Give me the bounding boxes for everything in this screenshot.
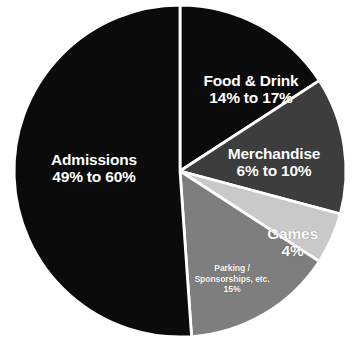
slice-label-games-value: 4% [240,242,345,259]
slice-label-admissions-name: Admissions [18,151,170,168]
slice-label-parking-value: 15% [174,284,290,295]
slice-label-food-drink: Food & Drink 14% to 17% [176,72,326,107]
slice-label-admissions: Admissions 49% to 60% [18,151,170,186]
slice-label-parking: Parking / Sponsorships, etc. 15% [174,263,290,295]
slice-label-food-drink-name: Food & Drink [176,72,326,89]
slice-label-food-drink-value: 14% to 17% [176,89,326,106]
slice-label-games-name: Games [240,225,345,242]
pie-chart-figure: Admissions 49% to 60% Food & Drink 14% t… [0,0,352,343]
slice-label-merchandise-value: 6% to 10% [198,162,350,179]
slice-label-merchandise: Merchandise 6% to 10% [198,145,350,180]
slice-label-merchandise-name: Merchandise [198,145,350,162]
slice-label-parking-name-line1: Parking / [174,263,290,274]
slice-label-games: Games 4% [240,225,345,260]
slice-label-admissions-value: 49% to 60% [18,168,170,185]
slice-label-parking-name-line2: Sponsorships, etc. [174,274,290,285]
